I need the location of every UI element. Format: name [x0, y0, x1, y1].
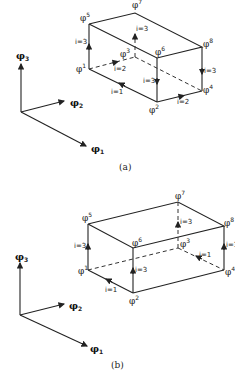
- svg-text:i=3: i=3: [75, 38, 87, 46]
- axis-label-phi3: φ3: [16, 50, 29, 62]
- svg-text:i=3: i=3: [74, 242, 86, 250]
- svg-text:φ2: φ2: [129, 294, 139, 306]
- svg-text:i=2: i=2: [114, 65, 126, 73]
- svg-text:φ3: φ3: [180, 237, 190, 249]
- svg-text:φ7: φ7: [132, 0, 142, 10]
- box-b: [88, 202, 224, 293]
- axis-label-phi2: φ2: [69, 300, 82, 312]
- svg-text:φ4: φ4: [225, 265, 235, 277]
- axis-phi2: [21, 101, 64, 112]
- svg-text:φ1: φ1: [78, 264, 88, 276]
- svg-text:φ1: φ1: [76, 62, 86, 74]
- svg-text:φ6: φ6: [155, 45, 165, 57]
- svg-text:i=3: i=3: [204, 67, 216, 75]
- caption-a: (a): [119, 162, 131, 172]
- svg-text:φ4: φ4: [203, 83, 213, 95]
- svg-text:i=2: i=2: [177, 98, 189, 106]
- coordinate-axes-b: φ3 φ2 φ1: [15, 251, 103, 355]
- axis-phi2: [20, 304, 64, 315]
- axis-label-phi2: φ2: [70, 97, 83, 109]
- svg-text:i=1: i=1: [199, 251, 211, 259]
- node-labels-a: φ5 φ7 φ8 φ6 φ1 φ3 φ4 φ2: [76, 0, 213, 115]
- coordinate-axes-a: φ3 φ2 φ1: [16, 50, 104, 155]
- svg-text:φ3: φ3: [120, 47, 130, 59]
- svg-text:i=3: i=3: [226, 241, 235, 249]
- svg-text:i=3: i=3: [136, 25, 148, 33]
- panel-b: φ3 φ2 φ1 φ5 φ7 φ8 φ6 φ1 φ: [15, 189, 235, 370]
- panel-a: φ3 φ2 φ1: [16, 0, 216, 172]
- svg-text:i=3: i=3: [135, 266, 147, 274]
- node-labels-b: φ5 φ7 φ8 φ6 φ1 φ3 φ4 φ2: [78, 189, 235, 306]
- axis-label-phi3: φ3: [15, 251, 28, 263]
- axis-label-phi1: φ1: [91, 143, 104, 155]
- svg-text:φ5: φ5: [80, 11, 90, 23]
- svg-text:i=1: i=1: [111, 88, 123, 96]
- svg-text:φ8: φ8: [224, 216, 234, 228]
- svg-text:φ8: φ8: [203, 37, 213, 49]
- diagram-canvas: φ3 φ2 φ1: [0, 0, 235, 373]
- caption-b: (b): [111, 360, 124, 370]
- svg-text:φ7: φ7: [175, 189, 185, 201]
- axis-label-phi1: φ1: [90, 343, 103, 355]
- svg-text:i=3: i=3: [143, 77, 155, 85]
- svg-text:i=3: i=3: [180, 218, 192, 226]
- svg-text:φ2: φ2: [149, 103, 159, 115]
- svg-text:i=1: i=1: [105, 286, 117, 294]
- edge-labels-a: i=3 i=3 i=2 i=1 i=3 i=3 i=2: [75, 25, 216, 106]
- axis-phi1: [21, 112, 86, 146]
- svg-text:φ5: φ5: [82, 211, 92, 223]
- axis-phi1: [20, 315, 87, 346]
